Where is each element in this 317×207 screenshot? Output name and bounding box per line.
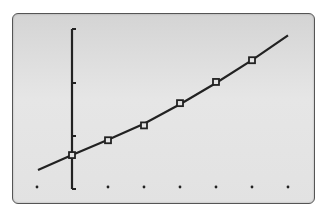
x-tick-dot (36, 186, 39, 189)
data-point-marker (213, 79, 219, 85)
data-point-marker (249, 57, 255, 63)
plot-area (0, 0, 317, 207)
x-tick-dot (107, 186, 110, 189)
regression-curve (38, 35, 288, 170)
x-tick-dot (287, 186, 290, 189)
data-point-marker (69, 152, 75, 158)
x-tick-dot (143, 186, 146, 189)
y-axis (72, 29, 76, 189)
x-axis-tick-dots (36, 186, 290, 189)
x-tick-dot (215, 186, 218, 189)
data-points (69, 57, 255, 158)
x-tick-dot (179, 186, 182, 189)
data-point-marker (177, 100, 183, 106)
x-tick-dot (251, 186, 254, 189)
data-point-marker (105, 137, 111, 143)
data-point-marker (141, 122, 147, 128)
